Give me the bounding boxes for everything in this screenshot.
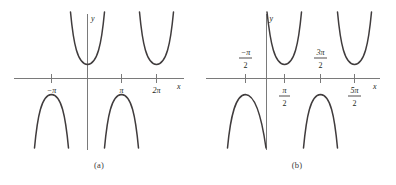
tick-label-pi-half-b: π 2: [279, 86, 290, 108]
tick-label-three-pi-half-numerator: 3π: [315, 48, 325, 57]
panel-a: y x −π π 2π (a): [0, 0, 198, 185]
y-axis-label-b: y: [269, 14, 274, 23]
tick-label-five-pi-half-denominator: 2: [353, 99, 357, 108]
curve-b-down-neg-pi-half: [228, 95, 267, 149]
tick-label-neg-pi-half-numerator: −π: [241, 48, 251, 57]
curve-a-down-neg-pi: [35, 95, 69, 149]
plot-b-svg: y x −π 2 π 2 3π 2: [198, 0, 396, 160]
tick-label-five-pi-half-numerator: 5π: [350, 86, 359, 95]
tick-label-pi-half-numerator: π: [282, 86, 287, 95]
x-axis-label-b: x: [372, 82, 377, 91]
panel-a-caption: (a): [0, 160, 198, 170]
tick-label-five-pi-half-b: 5π 2: [348, 86, 361, 108]
trig-graph-figure: y x −π π 2π (a): [0, 0, 396, 185]
tick-label-neg-pi-half-b: −π 2: [239, 48, 252, 70]
panel-b: y x −π 2 π 2 3π 2: [198, 0, 396, 185]
curve-b-down-three-pi-half: [304, 95, 338, 149]
curve-b-up-five-pi-half: [338, 12, 372, 65]
plot-a: y x −π π 2π: [0, 0, 198, 160]
y-axis-label-a: y: [90, 14, 95, 23]
tick-label-pi-a: π: [119, 86, 124, 95]
tick-label-pi-half-denominator: 2: [283, 99, 287, 108]
curve-a-down-pi: [105, 95, 139, 149]
curve-a-up-2pi: [140, 12, 174, 65]
tick-label-three-pi-half-b: 3π 2: [314, 48, 327, 70]
plot-b: y x −π 2 π 2 3π 2: [198, 0, 396, 160]
tick-label-two-pi-a: 2π: [152, 86, 161, 95]
tick-label-three-pi-half-denominator: 2: [319, 61, 323, 70]
tick-label-neg-pi-a: −π: [47, 86, 57, 95]
plot-a-svg: y x −π π 2π: [0, 0, 198, 160]
panel-b-caption: (b): [198, 160, 396, 170]
x-axis-label-a: x: [176, 82, 181, 91]
tick-label-neg-pi-half-denominator: 2: [244, 61, 248, 70]
